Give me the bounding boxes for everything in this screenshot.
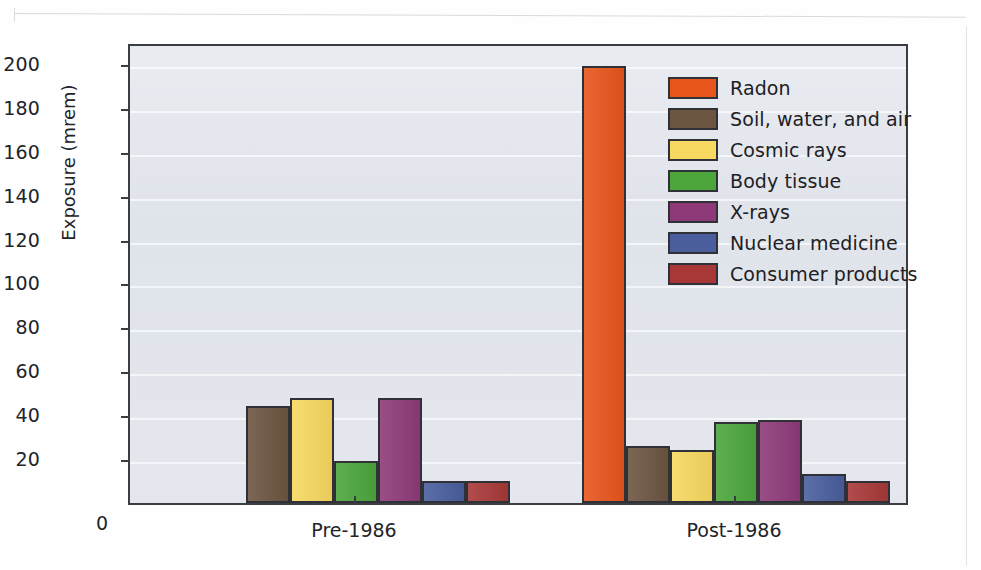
legend-label: Body tissue xyxy=(730,170,841,192)
bar-texture xyxy=(468,483,508,501)
bar-pre-1986-body-tissue xyxy=(334,461,378,503)
legend-item-consumer-products[interactable]: Consumer products xyxy=(668,258,918,289)
bar-post-1986-x-rays xyxy=(758,420,802,503)
page-border-top-rule xyxy=(14,13,966,18)
bar-post-1986-soil-water-and-air xyxy=(626,446,670,503)
bar-texture xyxy=(804,476,844,501)
legend-swatch-icon xyxy=(668,232,718,254)
bar-pre-1986-soil-water-and-air xyxy=(246,406,290,503)
y-tick-label-200: 200 xyxy=(0,53,40,75)
legend-item-body-tissue[interactable]: Body tissue xyxy=(668,165,918,196)
bar-texture xyxy=(584,68,624,501)
bar-texture xyxy=(380,400,420,501)
legend-swatch-icon xyxy=(668,108,718,130)
y-tick-label-140: 140 xyxy=(0,185,40,207)
bar-texture xyxy=(716,424,756,501)
x-tick-mark-post-1986 xyxy=(734,496,736,505)
page-border-left-mark xyxy=(14,8,15,22)
legend-label: X-rays xyxy=(730,201,790,223)
x-group-label-pre-1986: Pre-1986 xyxy=(311,519,396,541)
y-tick-label-180: 180 xyxy=(0,97,40,119)
page-border-right-rule xyxy=(966,26,967,566)
bar-texture xyxy=(628,448,668,501)
y-tick-mark-120 xyxy=(121,241,128,243)
y-tick-mark-60 xyxy=(121,372,128,374)
legend-label: Consumer products xyxy=(730,263,918,285)
bar-pre-1986-x-rays xyxy=(378,398,422,503)
bar-post-1986-radon xyxy=(582,66,626,503)
bar-post-1986-body-tissue xyxy=(714,422,758,503)
bar-post-1986-nuclear-medicine xyxy=(802,474,846,503)
y-tick-label-60: 60 xyxy=(0,360,40,382)
y-tick-label-40: 40 xyxy=(0,404,40,426)
bar-texture xyxy=(336,463,376,501)
gridline-200 xyxy=(130,67,906,69)
legend-swatch-icon xyxy=(668,201,718,223)
y-tick-label-120: 120 xyxy=(0,229,40,251)
legend-item-soil-water-and-air[interactable]: Soil, water, and air xyxy=(668,103,918,134)
bar-texture xyxy=(292,400,332,501)
y-tick-mark-160 xyxy=(121,153,128,155)
legend-label: Radon xyxy=(730,77,791,99)
y-axis-title: Exposure (mrem) xyxy=(58,53,79,273)
x-tick-mark-pre-1986 xyxy=(354,496,356,505)
y-tick-label-20: 20 xyxy=(0,448,40,470)
gridline-80 xyxy=(130,330,906,332)
bar-texture xyxy=(424,483,464,501)
bar-post-1986-consumer-products xyxy=(846,481,890,503)
bar-texture xyxy=(672,452,712,501)
legend-item-nuclear-medicine[interactable]: Nuclear medicine xyxy=(668,227,918,258)
gridline-60 xyxy=(130,374,906,376)
y-tick-mark-140 xyxy=(121,197,128,199)
bar-pre-1986-consumer-products xyxy=(466,481,510,503)
y-tick-mark-180 xyxy=(121,109,128,111)
chart-legend: RadonSoil, water, and airCosmic raysBody… xyxy=(668,72,918,289)
legend-swatch-icon xyxy=(668,170,718,192)
y-tick-mark-200 xyxy=(121,65,128,67)
y-tick-label-100: 100 xyxy=(0,272,40,294)
y-tick-mark-20 xyxy=(121,460,128,462)
y-tick-mark-80 xyxy=(121,328,128,330)
x-group-label-post-1986: Post-1986 xyxy=(687,519,782,541)
y-tick-mark-40 xyxy=(121,416,128,418)
y-tick-label-160: 160 xyxy=(0,141,40,163)
legend-label: Cosmic rays xyxy=(730,139,847,161)
legend-swatch-icon xyxy=(668,77,718,99)
bar-pre-1986-nuclear-medicine xyxy=(422,481,466,503)
legend-label: Soil, water, and air xyxy=(730,108,911,130)
bar-pre-1986-cosmic-rays xyxy=(290,398,334,503)
y-axis-zero-label: 0 xyxy=(96,512,108,534)
y-tick-mark-100 xyxy=(121,284,128,286)
legend-item-x-rays[interactable]: X-rays xyxy=(668,196,918,227)
chart-page: Exposure (mrem) 204060801001201401601802… xyxy=(0,0,981,570)
bar-texture xyxy=(760,422,800,501)
legend-label: Nuclear medicine xyxy=(730,232,898,254)
bar-texture xyxy=(248,408,288,501)
legend-swatch-icon xyxy=(668,263,718,285)
bar-post-1986-cosmic-rays xyxy=(670,450,714,503)
y-tick-label-80: 80 xyxy=(0,316,40,338)
legend-swatch-icon xyxy=(668,139,718,161)
bar-texture xyxy=(848,483,888,501)
legend-item-cosmic-rays[interactable]: Cosmic rays xyxy=(668,134,918,165)
legend-item-radon[interactable]: Radon xyxy=(668,72,918,103)
